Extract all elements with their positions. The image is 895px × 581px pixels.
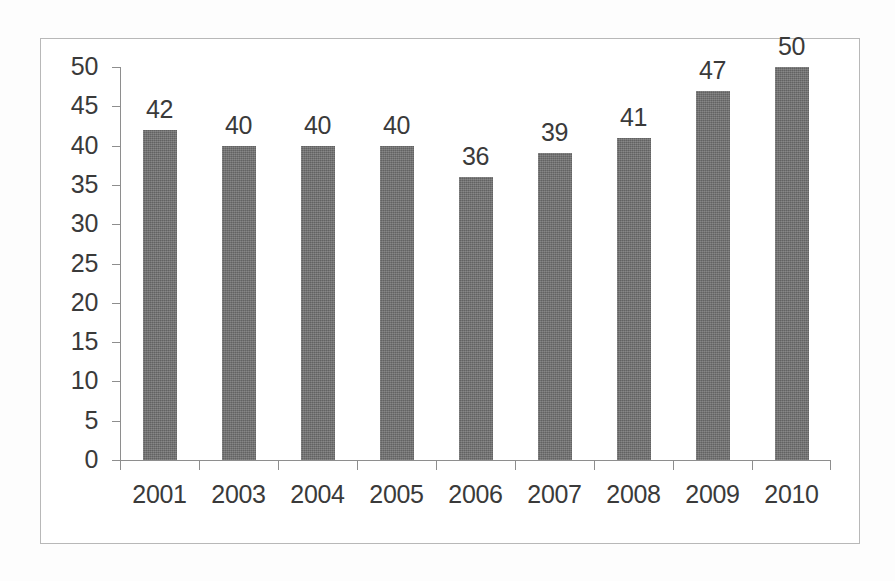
chart-frame: [40, 38, 860, 544]
